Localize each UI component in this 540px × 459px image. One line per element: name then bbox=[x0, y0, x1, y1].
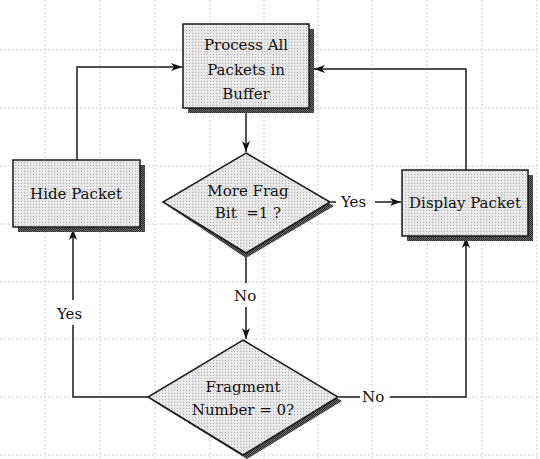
process-line-1: Process All bbox=[204, 36, 288, 54]
node-more-frag-decision[interactable]: More Frag Bit =1 ? bbox=[163, 153, 334, 258]
fragnum-line-2: Number = 0? bbox=[192, 401, 294, 419]
node-fragment-number-decision[interactable]: Fragment Number = 0? bbox=[148, 340, 342, 459]
morefrag-line-1: More Frag bbox=[207, 182, 289, 200]
flowchart-canvas: Yes No Yes No Process All Packets in Buf… bbox=[0, 0, 540, 459]
process-line-3: Buffer bbox=[222, 85, 270, 103]
edge-fragnum-no bbox=[390, 237, 466, 397]
hide-label: Hide Packet bbox=[30, 185, 122, 203]
node-hide-packet[interactable]: Hide Packet bbox=[13, 160, 145, 232]
label-yes-left: Yes bbox=[56, 305, 82, 323]
edge-hide-to-process bbox=[77, 67, 182, 160]
label-no-bottom: No bbox=[362, 388, 384, 406]
fragnum-line-1: Fragment bbox=[206, 378, 281, 396]
edge-display-to-process bbox=[314, 69, 466, 170]
node-display-packet[interactable]: Display Packet bbox=[402, 170, 533, 241]
label-yes-right: Yes bbox=[340, 193, 366, 211]
process-line-2: Packets in bbox=[207, 61, 285, 79]
node-process-all-packets[interactable]: Process All Packets in Buffer bbox=[183, 24, 314, 113]
label-no-middle: No bbox=[234, 287, 256, 305]
morefrag-line-2: Bit =1 ? bbox=[215, 204, 281, 222]
display-label: Display Packet bbox=[409, 194, 521, 212]
